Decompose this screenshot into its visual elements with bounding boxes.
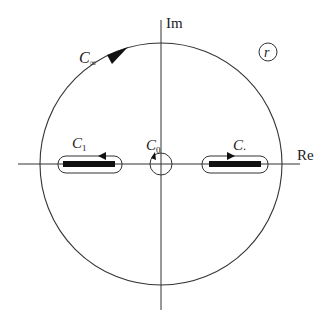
left-slot-label: C1 xyxy=(72,135,87,153)
right-slot-label: C. xyxy=(233,137,246,153)
left-branch-cut xyxy=(63,161,115,167)
big-circle-label: C∞ xyxy=(79,49,96,68)
contour-diagram: Im Re C∞ r C0 C1 C. xyxy=(0,0,326,319)
real-axis-label: Re xyxy=(297,147,314,163)
left-slot-arrow-icon xyxy=(98,152,106,160)
right-slot-arrow-icon xyxy=(227,152,235,160)
small-circle-label: C0 xyxy=(146,137,161,155)
imag-axis-label: Im xyxy=(166,15,183,31)
big-circle-arrow-icon xyxy=(107,47,128,64)
region-label: r xyxy=(264,45,270,60)
right-branch-cut xyxy=(209,161,261,167)
